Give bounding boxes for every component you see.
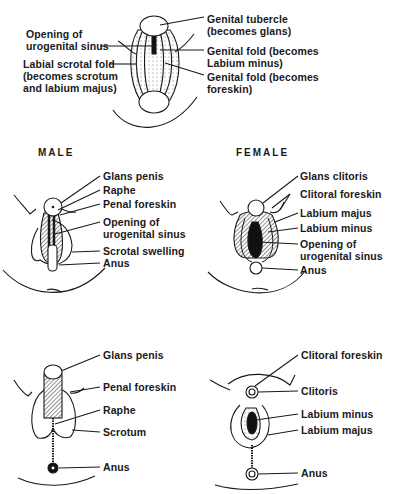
label-male-opening-urogenital-sinus: Opening of urogenital sinus [103, 216, 186, 240]
label-female-clitoral-foreskin: Clitoral foreskin [300, 188, 382, 200]
label-female-labium-minus-bottom: Labium minus [301, 408, 373, 420]
label-male-penal-foreskin: Penal foreskin [103, 198, 176, 210]
heading-female: FEMALE [236, 147, 289, 158]
label-male-glans-penis-bottom: Glans penis [103, 349, 164, 361]
label-male-glans-penis: Glans penis [103, 170, 164, 182]
label-male-anus-middle: Anus [103, 257, 130, 269]
label-genital-fold-foreskin: Genital fold (becomes foreskin) [207, 71, 319, 95]
label-female-opening-urogenital-sinus: Opening of urogenital sinus [300, 238, 383, 262]
label-female-labium-minus: Labium minus [300, 222, 372, 234]
label-genital-fold-labium: Genital fold (becomes Labium minus) [207, 45, 319, 69]
label-male-anus-bottom: Anus [103, 461, 130, 473]
label-male-raphe-bottom: Raphe [103, 404, 136, 416]
label-male-raphe: Raphe [103, 184, 136, 196]
label-female-clitoral-foreskin-bottom: Clitoral foreskin [301, 349, 383, 361]
label-female-anus-middle: Anus [300, 264, 327, 276]
female-middle-drawing [208, 176, 306, 293]
heading-male: MALE [38, 147, 74, 158]
label-female-labium-majus-bottom: Labium majus [301, 424, 373, 436]
label-female-clitoris: Clitoris [301, 385, 338, 397]
female-bottom-drawing [210, 355, 298, 489]
label-genital-tubercle: Genital tubercle (becomes glans) [207, 13, 291, 37]
label-opening-urogenital-sinus-top: Opening of urogenital sinus [26, 28, 109, 52]
label-female-labium-majus: Labium majus [300, 207, 372, 219]
label-male-scrotum: Scrotum [103, 426, 146, 438]
label-male-penal-foreskin-bottom: Penal foreskin [103, 381, 176, 393]
label-labial-scrotal-fold: Labial scrotal fold (becomes scrotum and… [23, 58, 118, 94]
label-male-scrotal-swelling: Scrotal swelling [103, 245, 185, 257]
male-middle-drawing [3, 176, 105, 292]
label-female-anus-bottom: Anus [301, 467, 328, 479]
male-bottom-drawing [14, 355, 100, 485]
label-female-glans-clitoris: Glans clitoris [300, 170, 368, 182]
